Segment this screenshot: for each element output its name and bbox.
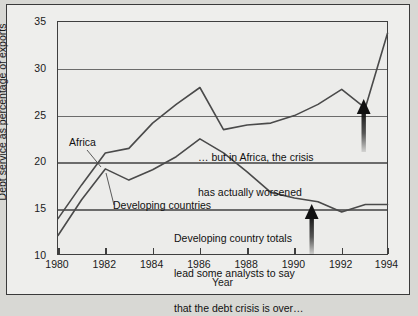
plot-area: Africa Developing countries … but in Afr…	[57, 21, 388, 255]
developing-annotation-line-1: Developing country totals	[174, 233, 304, 245]
x-tick-label: 1992	[316, 258, 366, 270]
africa-annotation: … but in Africa, the crisis has actually…	[198, 129, 314, 222]
x-tick-label: 1984	[127, 258, 177, 270]
series-label-africa: Africa	[69, 136, 96, 148]
africa-leader-line	[87, 150, 101, 167]
x-tick-label: 1988	[221, 258, 271, 270]
x-axis-title: Year	[57, 276, 388, 288]
africa-annotation-line-1: … but in Africa, the crisis	[198, 152, 314, 164]
developing-annotation-line-3: that the debt crisis is over…	[174, 303, 304, 315]
y-axis-title: Debt service as percentage of exports	[0, 0, 8, 242]
x-tick-label: 1990	[268, 258, 318, 270]
x-tick-label: 1986	[174, 258, 224, 270]
x-tick-label: 1980	[32, 258, 82, 270]
x-tick-label: 1994	[362, 258, 412, 270]
x-tick-label: 1982	[79, 258, 129, 270]
africa-up-arrow-icon	[357, 99, 371, 152]
africa-annotation-line-2: has actually worsened	[198, 187, 314, 199]
